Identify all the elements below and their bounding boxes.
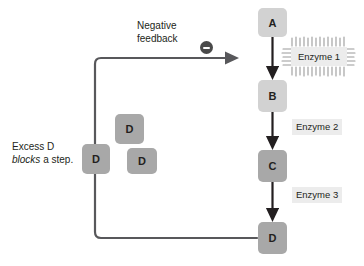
negative-feedback-line-1: Negative [137,19,178,32]
minus-bar [203,47,210,49]
excess-d-molecule-lower: D [127,148,157,174]
enzyme-3-label: Enzyme 3 [292,187,342,203]
feedback-loop-path [95,58,257,238]
enzyme-1-label: Enzyme 1 [291,47,347,66]
metabolic-pathway-diagram: A B C D D D D Enzyme 1 Enzyme 2 Enzyme 3… [0,0,364,266]
excess-d-rest: a step. [40,154,73,165]
enzyme-1-group: Enzyme 1 [282,36,356,78]
negative-feedback-line-2: feedback [137,32,178,45]
excess-d-emphasis: blocks [12,154,40,165]
excess-d-label: Excess D blocks a step. [12,140,73,166]
metabolite-node-c: C [258,150,287,182]
metabolite-node-b: B [258,80,287,112]
excess-d-molecule-blocking: D [82,144,110,174]
minus-sign-icon [200,41,213,54]
enzyme-2-label: Enzyme 2 [292,119,342,135]
metabolite-node-a: A [258,8,287,37]
excess-d-molecule-upper: D [115,114,144,144]
excess-d-line-2: blocks a step. [12,153,73,166]
excess-d-line-1: Excess D [12,140,73,153]
metabolite-node-d: D [258,222,287,254]
negative-feedback-label: Negative feedback [137,19,178,45]
